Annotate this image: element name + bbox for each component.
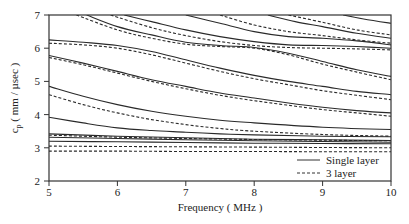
curve-layer — [49, 15, 391, 152]
three-layer-curve — [49, 151, 391, 152]
x-axis-title: Frequency ( MHz ) — [178, 201, 263, 214]
x-tick-label: 8 — [251, 186, 257, 198]
y-tick-label: 7 — [35, 9, 41, 21]
single-layer-curve — [343, 15, 391, 23]
y-tick-label: 5 — [35, 75, 41, 87]
y-axis: 234567 — [35, 9, 50, 187]
three-layer-curve — [49, 146, 391, 148]
single-layer-curve — [268, 15, 391, 38]
three-layer-curve — [49, 58, 391, 117]
three-layer-curve — [76, 15, 391, 80]
x-tick-label: 7 — [183, 186, 189, 198]
three-layer-curve — [49, 43, 391, 99]
legend-label-3-layer: 3 layer — [326, 167, 357, 179]
three-layer-curve — [111, 15, 391, 50]
single-layer-curve — [49, 56, 391, 113]
y-axis-title: cp ( mm / µsec ) — [8, 62, 23, 133]
y-tick-label: 3 — [35, 142, 41, 154]
single-layer-curve — [124, 15, 391, 48]
three-layer-curve — [288, 15, 391, 35]
dispersion-chart: 5678910 234567 Frequency ( MHz ) cp ( mm… — [0, 0, 409, 224]
legend-label-single-layer: Single layer — [326, 154, 379, 166]
x-tick-label: 5 — [46, 186, 52, 198]
x-tick-label: 10 — [386, 186, 398, 198]
legend: Single layer 3 layer — [297, 154, 379, 179]
y-tick-label: 2 — [35, 175, 41, 187]
x-axis: 5678910 — [46, 181, 397, 198]
y-tick-label: 4 — [35, 109, 41, 121]
y-tick-label: 6 — [35, 42, 41, 54]
x-tick-label: 9 — [320, 186, 326, 198]
x-tick-label: 6 — [115, 186, 121, 198]
